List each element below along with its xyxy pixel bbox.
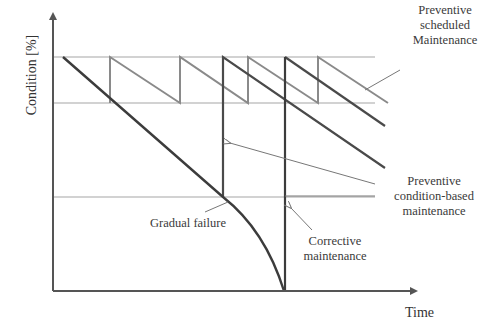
label-line: Corrective <box>290 234 380 249</box>
corrective-pointer <box>291 208 312 230</box>
gradual-failure-pointer <box>205 202 228 212</box>
label-line: Preventive <box>378 174 490 189</box>
condition-based-pointer-upper <box>230 143 375 184</box>
x-axis-label: Time <box>405 305 434 321</box>
label-line: maintenance <box>290 249 380 264</box>
gradual-failure-curve <box>63 57 284 291</box>
label-line: Maintenance <box>400 33 490 48</box>
preventive-condition-based-label: Preventive condition-based maintenance <box>378 174 490 219</box>
scheduled-pointer <box>365 70 400 90</box>
y-axis-label: Condition [%] <box>24 35 40 116</box>
preventive-scheduled-label: Preventive scheduled Maintenance <box>400 3 490 48</box>
label-line: scheduled <box>400 18 490 33</box>
scheduled-maintenance-curve <box>110 57 388 103</box>
label-line: maintenance <box>378 204 490 219</box>
maintenance-strategy-diagram <box>0 0 490 327</box>
gradual-failure-label: Gradual failure <box>150 216 226 231</box>
corrective-maintenance-label: Corrective maintenance <box>290 234 380 264</box>
label-line: Preventive <box>400 3 490 18</box>
label-line: condition-based <box>378 189 490 204</box>
